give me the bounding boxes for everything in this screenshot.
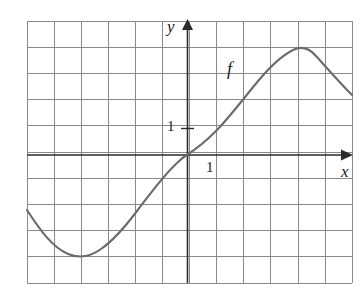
y-axis-label: y: [167, 18, 175, 35]
y-unit-tick-label: 1: [167, 119, 175, 134]
x-axis-label: x: [341, 163, 349, 180]
function-name-label: f: [227, 60, 232, 78]
graph-canvas: [0, 0, 363, 293]
x-unit-tick-label: 1: [206, 160, 214, 175]
graph-figure: y x f 1 1: [0, 0, 363, 293]
